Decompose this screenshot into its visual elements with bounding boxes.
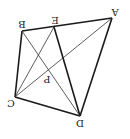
segment-cd	[15, 97, 80, 116]
label-d: D	[75, 118, 85, 128]
segment-da	[80, 18, 112, 116]
label-p: P	[42, 74, 52, 84]
label-c: C	[6, 98, 16, 108]
segment-ed	[54, 27, 80, 116]
geometry-diagram: A B E C D P	[0, 0, 130, 139]
label-e: E	[50, 15, 60, 25]
label-a: A	[110, 7, 120, 17]
label-b: B	[17, 19, 27, 29]
